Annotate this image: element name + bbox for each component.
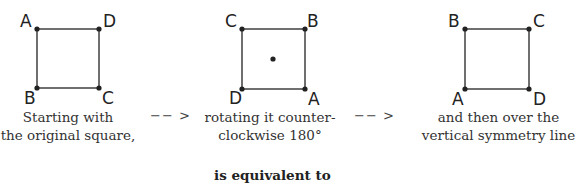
vertex-dot	[302, 86, 307, 91]
caption-original: Starting with the original square,	[0, 108, 136, 144]
vertex-label-top-left: C	[225, 11, 237, 31]
vertex-label-top-left: B	[448, 11, 460, 31]
square-rotated: C B D A	[225, 11, 320, 109]
caption-line: rotating it counter-	[200, 108, 340, 126]
vertex-label-top-right: C	[533, 11, 545, 31]
vertex-dot	[462, 26, 467, 31]
square-reflected: B C A D	[448, 11, 546, 109]
caption-line: and then over the	[418, 108, 579, 126]
vertex-dot	[526, 86, 531, 91]
vertex-label-bottom-right: C	[102, 88, 114, 108]
square-original: A D B C	[20, 11, 116, 108]
vertex-dot	[526, 26, 531, 31]
caption-line: the original square,	[0, 126, 136, 144]
vertex-label-bottom-left: B	[24, 88, 36, 108]
vertex-dot	[239, 26, 244, 31]
vertex-dot	[96, 26, 101, 31]
caption-line: vertical symmetry line	[418, 126, 579, 144]
vertex-label-top-right: D	[103, 11, 116, 31]
caption-line: Starting with	[0, 108, 136, 126]
center-dot	[270, 56, 275, 61]
vertex-label-bottom-left: D	[229, 88, 242, 108]
caption-reflected: and then over the vertical symmetry line	[418, 108, 579, 144]
arrow-1: −− >	[150, 108, 191, 123]
vertex-label-bottom-right: A	[308, 89, 320, 109]
caption-rotated: rotating it counter- clockwise 180°	[200, 108, 340, 144]
vertex-label-top-right: B	[307, 11, 319, 31]
squares-figure: A D B C C B D A B C A D	[0, 0, 579, 194]
arrow-2: −− >	[354, 108, 395, 123]
equivalence-statement: is equivalent to	[214, 167, 331, 183]
vertex-label-bottom-right: D	[533, 89, 546, 109]
vertex-label-top-left: A	[20, 11, 32, 31]
vertex-dot	[34, 26, 39, 31]
symmetry-diagram: A D B C C B D A B C A D	[0, 0, 579, 194]
vertex-dot	[96, 85, 101, 90]
caption-line: clockwise 180°	[200, 126, 340, 144]
vertex-label-bottom-left: A	[452, 89, 464, 109]
